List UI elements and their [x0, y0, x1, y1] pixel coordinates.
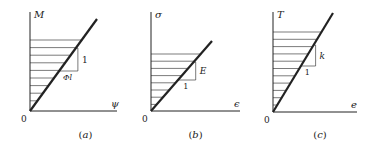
slope-rise-label: 1 — [82, 55, 88, 65]
linear-relation-line — [151, 41, 212, 111]
diagram-svg: Mψ01Φl(a)σϵ0E1(b)Te0k1(c) — [0, 0, 372, 154]
panel-b: σϵ0E1(b) — [142, 9, 240, 140]
x-axis-label: e — [351, 99, 357, 110]
slope-rise-label: k — [320, 51, 325, 61]
origin-label: 0 — [264, 115, 270, 125]
y-axis-label: M — [33, 9, 45, 20]
figure-three-linear-relations: Mψ01Φl(a)σϵ0E1(b)Te0k1(c) — [0, 0, 372, 154]
panel-c: Te0k1(c) — [264, 9, 357, 140]
panel-caption: (b) — [188, 129, 202, 140]
slope-run-label: 1 — [305, 68, 310, 77]
x-axis-label: ϵ — [234, 98, 240, 109]
panel-caption: (a) — [79, 129, 93, 140]
y-axis-label: T — [277, 9, 285, 20]
origin-label: 0 — [142, 114, 148, 124]
y-axis-label: σ — [155, 9, 163, 20]
slope-rise-label: E — [199, 66, 207, 76]
slope-run-label: 1 — [183, 82, 188, 91]
origin-label: 0 — [21, 114, 27, 124]
linear-relation-line — [30, 19, 97, 111]
panel-caption: (c) — [313, 129, 327, 140]
slope-run-label: Φl — [63, 73, 73, 82]
panel-a: Mψ01Φl(a) — [21, 9, 119, 140]
linear-relation-line — [273, 13, 333, 112]
x-axis-label: ψ — [111, 98, 119, 109]
